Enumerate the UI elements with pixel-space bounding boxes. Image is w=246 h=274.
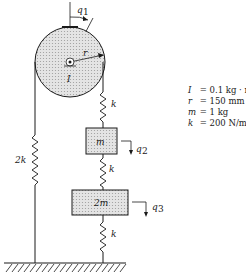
svg-text:k: k <box>111 99 116 109</box>
svg-text:m: m <box>96 137 105 147</box>
radius-label: r <box>83 48 88 58</box>
svg-text:k: k <box>109 164 114 174</box>
spring-mid-k: k <box>100 154 114 190</box>
inertia-label: I <box>66 74 71 84</box>
mass-2m: 2m q 3 <box>72 190 164 217</box>
svg-text:2: 2 <box>142 146 148 156</box>
param-inertia: I = 0.1 kg · m² <box>188 85 246 96</box>
pulley: r I <box>35 27 105 97</box>
svg-text:1: 1 <box>83 7 89 17</box>
param-mass: m = 1 kg <box>188 107 246 118</box>
spring-bottom-k: k <box>100 215 116 263</box>
parameter-list: I = 0.1 kg · m² r = 150 mm m = 1 kg k = … <box>188 85 246 129</box>
svg-text:k: k <box>111 229 116 239</box>
spring-2k-label: 2k <box>14 155 26 165</box>
left-rope-spring-2k: 2k <box>14 62 38 263</box>
system-diagram: q 1 r I 2k k m q 2 <box>0 0 246 274</box>
param-radius: r = 150 mm <box>188 96 246 107</box>
svg-text:3: 3 <box>158 204 164 214</box>
svg-text:2m: 2m <box>93 198 108 208</box>
param-stiffness: k = 200 N/m <box>188 118 246 129</box>
ground <box>4 263 126 272</box>
mass-m: m q 2 <box>86 128 148 156</box>
